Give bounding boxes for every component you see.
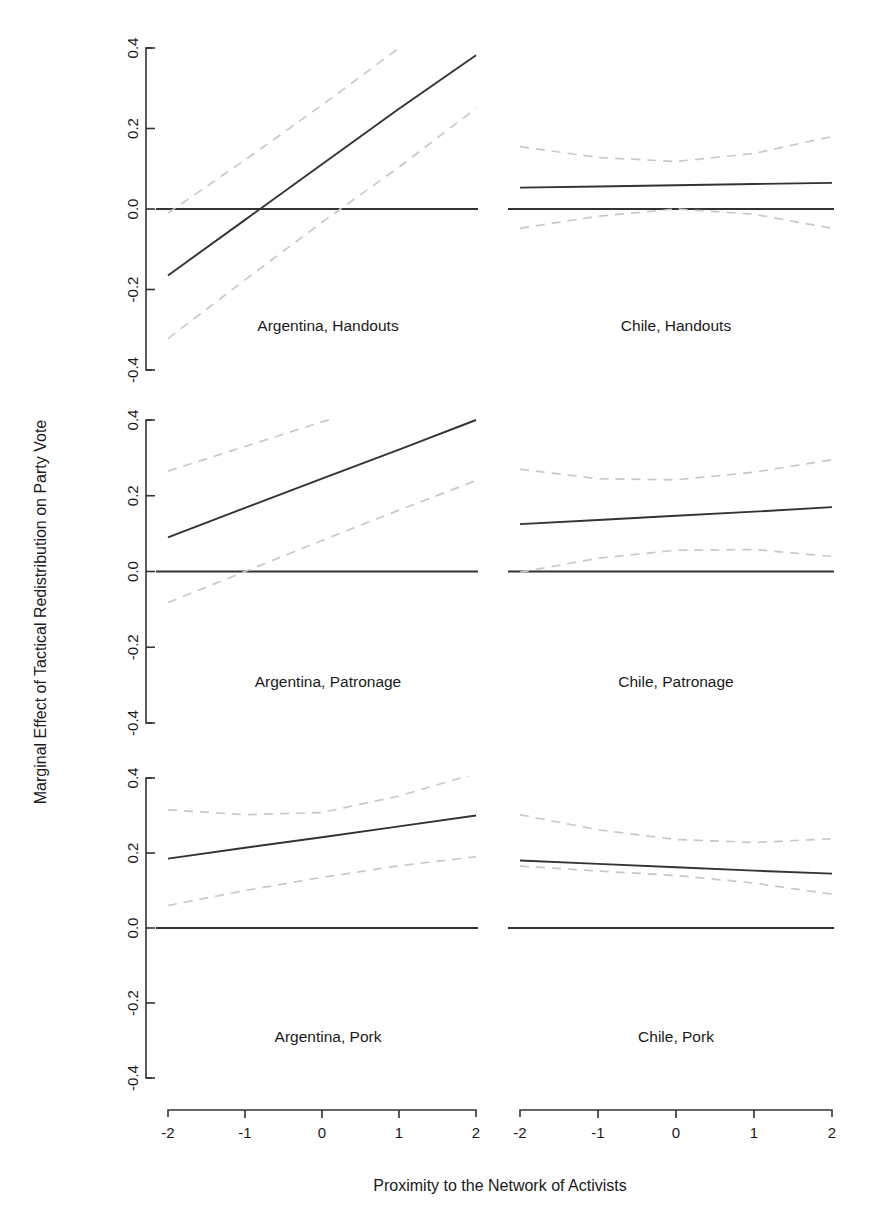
x-tick-label: 1 bbox=[395, 1124, 403, 1141]
y-tick-label: 0.4 bbox=[124, 768, 141, 789]
x-tick-label: -1 bbox=[238, 1124, 251, 1141]
panel-label: Chile, Handouts bbox=[621, 317, 732, 334]
y-axis-title: Marginal Effect of Tactical Redistributi… bbox=[32, 420, 49, 805]
ci-lower-line bbox=[520, 866, 832, 894]
x-tick-label: -2 bbox=[513, 1124, 526, 1141]
y-tick-label: 0.0 bbox=[124, 918, 141, 939]
estimate-line bbox=[520, 507, 832, 524]
x-axis-title: Proximity to the Network of Activists bbox=[373, 1177, 626, 1194]
x-tick-label: 0 bbox=[318, 1124, 326, 1141]
ci-lower-line bbox=[520, 209, 832, 228]
y-tick-label: -0.2 bbox=[124, 634, 141, 660]
panel-label: Argentina, Handouts bbox=[257, 317, 399, 334]
panel-label: Argentina, Pork bbox=[275, 1028, 382, 1045]
y-tick-label: 0.2 bbox=[124, 485, 141, 506]
y-tick-label: -0.4 bbox=[124, 1065, 141, 1091]
estimate-line bbox=[520, 861, 832, 874]
estimate-line bbox=[168, 816, 476, 859]
y-tick-label: 0.4 bbox=[124, 38, 141, 59]
ci-lower-line bbox=[168, 108, 476, 338]
x-tick-label: -2 bbox=[161, 1124, 174, 1141]
panel-label: Chile, Patronage bbox=[618, 673, 733, 690]
estimate-line bbox=[520, 183, 832, 188]
y-tick-label: 0.4 bbox=[124, 410, 141, 431]
ci-upper-line bbox=[168, 374, 476, 471]
panel-chile-patronage: Chile, Patronage bbox=[508, 460, 834, 690]
ci-lower-line bbox=[520, 550, 832, 573]
panel-chile-pork: -2-1012Chile, Pork bbox=[508, 815, 836, 1141]
ci-lower-line bbox=[168, 481, 476, 603]
y-tick-label: -0.2 bbox=[124, 990, 141, 1016]
y-tick-label: -0.4 bbox=[124, 710, 141, 736]
ci-lower-line bbox=[168, 857, 476, 906]
x-tick-label: 2 bbox=[472, 1124, 480, 1141]
panel-argentina-pork: 0.40.20.0-0.2-0.4-2-1012Argentina, Pork bbox=[124, 768, 480, 1141]
panel-argentina-patronage: 0.40.20.0-0.2-0.4Argentina, Patronage bbox=[124, 374, 478, 736]
panel-label: Chile, Pork bbox=[638, 1028, 714, 1045]
y-tick-label: 0.0 bbox=[124, 561, 141, 582]
ci-upper-line bbox=[520, 460, 832, 480]
y-tick-label: -0.2 bbox=[124, 277, 141, 303]
estimate-line bbox=[168, 55, 476, 275]
x-tick-label: 2 bbox=[828, 1124, 836, 1141]
y-tick-label: 0.2 bbox=[124, 843, 141, 864]
panel-label: Argentina, Patronage bbox=[255, 673, 402, 690]
y-tick-label: -0.4 bbox=[124, 357, 141, 383]
panel-grid: 0.40.20.0-0.2-0.4Argentina, HandoutsChil… bbox=[124, 0, 836, 1141]
figure-container: Marginal Effect of Tactical Redistributi… bbox=[0, 0, 885, 1225]
ci-upper-line bbox=[520, 815, 832, 843]
panel-chile-handouts: Chile, Handouts bbox=[508, 137, 834, 335]
y-tick-label: 0.0 bbox=[124, 199, 141, 220]
ci-upper-line bbox=[168, 774, 476, 815]
x-tick-label: 0 bbox=[672, 1124, 680, 1141]
y-tick-label: 0.2 bbox=[124, 118, 141, 139]
x-tick-label: -1 bbox=[591, 1124, 604, 1141]
marginal-effects-figure: Marginal Effect of Tactical Redistributi… bbox=[0, 0, 885, 1225]
ci-upper-line bbox=[168, 0, 476, 213]
ci-upper-line bbox=[520, 137, 832, 162]
panel-argentina-handouts: 0.40.20.0-0.2-0.4Argentina, Handouts bbox=[124, 0, 478, 383]
x-tick-label: 1 bbox=[750, 1124, 758, 1141]
estimate-line bbox=[168, 420, 476, 537]
